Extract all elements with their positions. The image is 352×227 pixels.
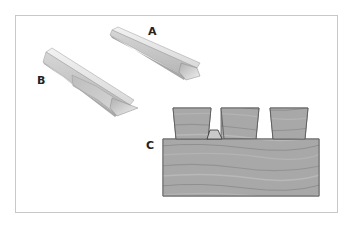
wedge-piece <box>207 130 222 139</box>
dovetail-board-c <box>163 108 319 196</box>
label-a: A <box>148 26 157 37</box>
dovetail-diagram <box>0 0 352 227</box>
label-b: B <box>37 75 45 86</box>
bar-b <box>43 48 138 117</box>
label-c: C <box>146 140 154 151</box>
